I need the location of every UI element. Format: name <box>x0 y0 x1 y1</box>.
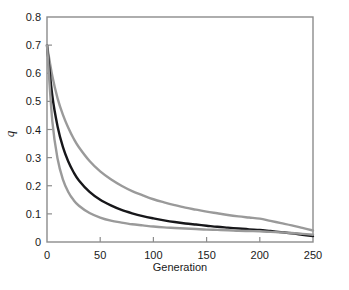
x-tick-label: 200 <box>251 249 269 261</box>
x-axis-title: Generation <box>153 261 207 273</box>
x-tick-label: 100 <box>144 249 162 261</box>
y-tick-label: 0.2 <box>26 180 41 192</box>
y-axis-tick-labels: 00.10.20.30.40.50.60.70.8 <box>26 11 41 248</box>
axis-tick-marks <box>47 45 260 242</box>
x-tick-label: 0 <box>44 249 50 261</box>
y-tick-label: 0.3 <box>26 152 41 164</box>
y-tick-label: 0.1 <box>26 208 41 220</box>
x-tick-label: 150 <box>197 249 215 261</box>
chart-figure: 00.10.20.30.40.50.60.70.8 05010015020025… <box>0 0 349 290</box>
y-tick-label: 0.4 <box>26 124 41 136</box>
y-tick-label: 0.6 <box>26 67 41 79</box>
y-tick-label: 0 <box>35 236 41 248</box>
plot-frame <box>47 17 313 242</box>
x-tick-label: 250 <box>304 249 322 261</box>
y-tick-label: 0.5 <box>26 95 41 107</box>
y-tick-label: 0.7 <box>26 39 41 51</box>
x-tick-label: 50 <box>94 249 106 261</box>
data-curves <box>47 45 313 236</box>
x-axis-tick-labels: 050100150200250 <box>44 249 322 261</box>
curve-upper <box>47 45 313 230</box>
y-tick-label: 0.8 <box>26 11 41 23</box>
chart-svg: 00.10.20.30.40.50.60.70.8 05010015020025… <box>0 0 349 290</box>
y-axis-title: q <box>2 130 17 137</box>
